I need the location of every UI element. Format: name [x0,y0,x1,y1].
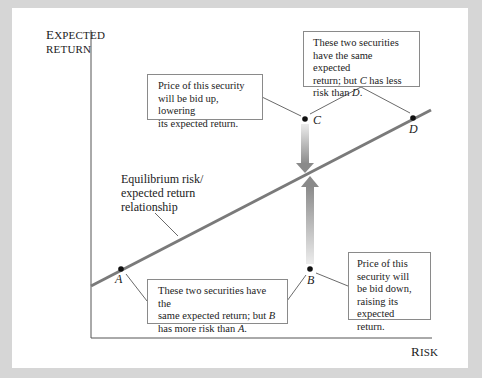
callout-ab-line3: has more risk than A. [158,323,277,336]
point-c [302,116,308,122]
x-axis-label-rest: ISK [420,346,438,358]
callout-cd-line4-pre: risk than [313,87,352,98]
y-axis-label-rest: XPECTED [54,29,105,41]
point-a [118,266,124,272]
callout-ab-var-b: B [269,310,275,321]
callout-cd-line1: These two securities [313,37,410,50]
equilibrium-line-label: Equilibrium risk/ expected return relati… [121,172,203,214]
callout-bid-down-line5: expected return. [357,308,422,333]
callout-cd-var-c: C [360,75,367,86]
callout-bid-down-line2: security will [357,271,422,284]
point-d-label: D [409,122,418,137]
callout-bid-down-line1: Price of this [357,258,422,271]
point-b-label: B [307,273,314,288]
callout-bid-up-line2: will be bid up, lowering [158,93,252,118]
x-axis-label-cap: R [411,344,420,359]
arrow-up-icon [301,176,319,264]
callout-bid-down-line4: raising its [357,296,422,309]
equilibrium-label-line3: relationship [121,200,203,214]
callout-b-bid-down: Price of this security will be bid down,… [348,252,431,320]
callout-ab-line3-pre: has more risk than [158,323,238,334]
callout-cd-var-d: D [352,87,360,98]
callout-cd-line4: risk than D. [313,87,410,100]
callout-bid-down-line3: be bid down, [357,283,422,296]
callout-c-bid-up: Price of this security will be bid up, l… [147,74,263,120]
y-axis-label: EXPECTED RETURN [46,28,105,56]
point-c-label: C [313,113,321,128]
callout-cd-line2: have the same expected [313,50,410,75]
point-b [307,266,313,272]
arrow-down-icon [296,124,314,173]
callout-cd-line3-post: has less [367,75,402,86]
callout-ab-line2-pre: same expected return; but [158,310,269,321]
callout-ab-line3-post: . [244,323,247,334]
equilibrium-label-line2: expected return [121,186,203,200]
callout-bid-up-line3: its expected return. [158,118,252,131]
y-axis-label-cap: E [46,27,54,42]
callout-cd-line3-pre: return; but [313,75,360,86]
point-d [410,115,416,121]
callout-cd-line4-post: . [360,87,363,98]
point-a-label: A [115,272,122,287]
callout-ab-line2: same expected return; but B [158,310,277,323]
callout-cd-same-return: These two securities have the same expec… [303,31,420,87]
callout-ab-same-return: These two securities have the same expec… [147,279,288,324]
callout-bid-up-line1: Price of this security [158,80,252,93]
equilibrium-label-line1: Equilibrium risk/ [121,172,203,186]
callout-cd-line3: return; but C has less [313,75,410,88]
callout-ab-line1: These two securities have the [158,285,277,310]
x-axis-label: RISK [411,345,438,359]
y-axis-label-line2: RETURN [46,43,91,55]
